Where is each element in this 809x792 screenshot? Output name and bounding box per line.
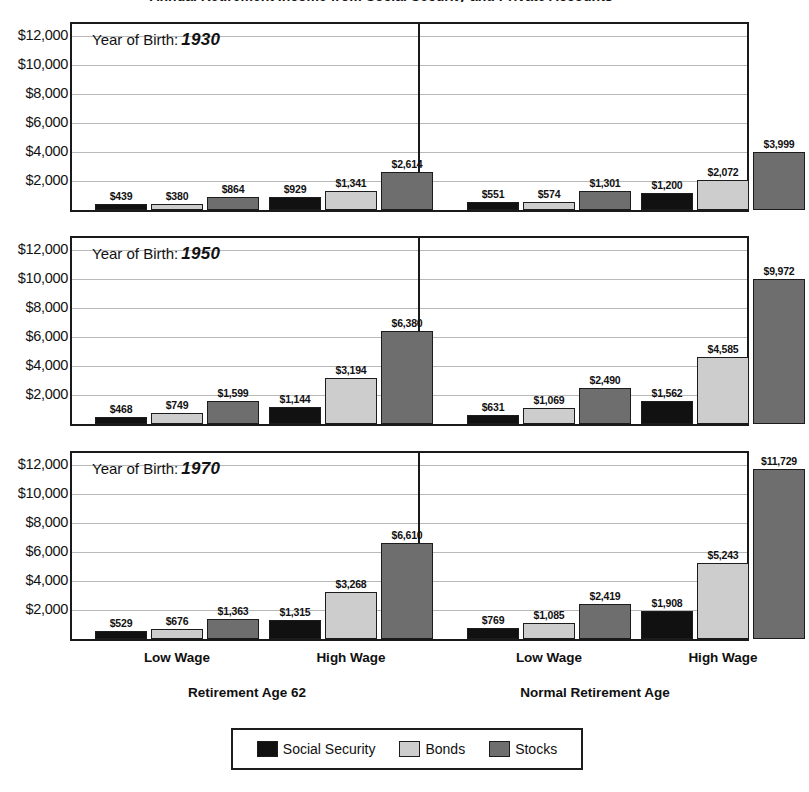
bar-value-label: $1,200 [632,179,702,191]
year-of-birth-value: 1970 [181,459,220,478]
panel-year-1950: $468$749$1,599$1,144$3,194$6,380$631$1,0… [70,236,749,426]
bar-bonds [523,623,575,639]
chart-legend: Social Security Bonds Stocks [231,728,583,770]
bar-value-label: $2,072 [688,166,758,178]
bar-bonds [697,563,749,639]
y-axis-tick-label: $4,000 [0,572,68,588]
bar-value-label: $1,085 [514,609,584,621]
y-axis-tick-label: $12,000 [0,456,68,472]
bar-value-label: $1,908 [632,597,702,609]
bar-value-label: $9,972 [744,265,809,277]
bar-stocks [381,331,433,424]
bar-value-label: $4,585 [688,343,758,355]
y-axis-panel-2: $2,000$4,000$6,000$8,000$10,000$12,000 [0,451,68,641]
bar-value-label: $1,301 [570,177,640,189]
bars-layer: $439$380$864$929$1,341$2,614$551$574$1,3… [72,24,747,210]
y-axis-tick-label: $2,000 [0,386,68,402]
bar-stocks [207,619,259,639]
bar-stocks [579,388,631,424]
y-axis-tick-label: $8,000 [0,85,68,101]
bar-stocks [753,279,805,424]
bar-value-label: $1,562 [632,387,702,399]
chart-title: Annual Retirement Income from Social Sec… [0,0,762,2]
legend-label-stocks: Stocks [515,741,557,757]
y-axis-tick-label: $10,000 [0,270,68,286]
bar-ss [467,415,519,424]
year-of-birth-value: 1930 [181,30,220,49]
bar-value-label: $3,999 [744,138,809,150]
bars-layer: $529$676$1,363$1,315$3,268$6,610$769$1,0… [72,453,747,639]
bar-value-label: $1,599 [198,387,268,399]
year-of-birth-value: 1950 [181,244,220,263]
legend-entry-stocks: Stocks [489,741,557,757]
year-of-birth-label: Year of Birth:1950 [92,244,220,264]
legend-swatch-icon-stocks [489,741,510,757]
bar-ss [95,204,147,210]
bar-ss [467,202,519,210]
bar-ss [95,631,147,639]
bar-stocks [207,197,259,210]
bar-value-label: $3,194 [316,364,386,376]
bar-stocks [381,543,433,639]
y-axis-tick-label: $2,000 [0,601,68,617]
y-axis-tick-label: $12,000 [0,241,68,257]
y-axis-tick-label: $4,000 [0,143,68,159]
y-axis-tick-label: $6,000 [0,114,68,130]
legend-swatch-icon-social-security [257,741,278,757]
bar-stocks [753,152,805,210]
section-label-retirement-age-62: Retirement Age 62 [137,685,357,700]
y-axis-tick-label: $10,000 [0,485,68,501]
panel-year-1970: $529$676$1,363$1,315$3,268$6,610$769$1,0… [70,451,749,641]
bar-value-label: $2,614 [372,158,442,170]
bar-stocks [579,191,631,210]
y-axis-tick-label: $8,000 [0,299,68,315]
bar-value-label: $2,490 [570,374,640,386]
bar-value-label: $864 [198,183,268,195]
bar-value-label: $2,419 [570,590,640,602]
y-axis-tick-label: $4,000 [0,357,68,373]
legend-label-bonds: Bonds [425,741,465,757]
x-axis-label-low-wage-2: Low Wage [479,650,619,665]
bar-value-label: $1,069 [514,394,584,406]
bar-stocks [753,469,805,639]
y-axis-tick-label: $6,000 [0,328,68,344]
bar-bonds [697,180,749,210]
bar-value-label: $1,144 [260,393,330,405]
section-label-normal-retirement-age: Normal Retirement Age [485,685,705,700]
bar-value-label: $3,268 [316,578,386,590]
legend-swatch-icon-bonds [399,741,420,757]
legend-entry-social-security: Social Security [257,741,376,757]
bar-ss [269,197,321,210]
bar-value-label: $1,363 [198,605,268,617]
x-axis-label-high-wage-2: High Wage [653,650,793,665]
bar-ss [467,628,519,639]
bar-stocks [579,604,631,639]
bar-bonds [325,191,377,210]
bar-bonds [523,202,575,210]
bar-stocks [381,172,433,210]
year-of-birth-caption: Year of Birth: [92,460,178,477]
bar-value-label: $1,315 [260,606,330,618]
bar-bonds [151,629,203,639]
y-axis-tick-label: $6,000 [0,543,68,559]
bars-layer: $468$749$1,599$1,144$3,194$6,380$631$1,0… [72,238,747,424]
bar-value-label: $11,729 [744,455,809,467]
bar-value-label: $749 [142,399,212,411]
y-axis-tick-label: $10,000 [0,56,68,72]
year-of-birth-caption: Year of Birth: [92,31,178,48]
bar-bonds [325,378,377,424]
legend-entry-bonds: Bonds [399,741,465,757]
bar-ss [641,401,693,424]
bar-value-label: $6,610 [372,529,442,541]
y-axis-tick-label: $12,000 [0,27,68,43]
bar-value-label: $1,341 [316,177,386,189]
bar-value-label: $5,243 [688,549,758,561]
year-of-birth-caption: Year of Birth: [92,245,178,262]
bar-bonds [151,413,203,424]
bar-ss [269,407,321,424]
y-axis-panel-1: $2,000$4,000$6,000$8,000$10,000$12,000 [0,236,68,426]
bar-stocks [207,401,259,424]
year-of-birth-label: Year of Birth:1970 [92,459,220,479]
bar-value-label: $574 [514,188,584,200]
